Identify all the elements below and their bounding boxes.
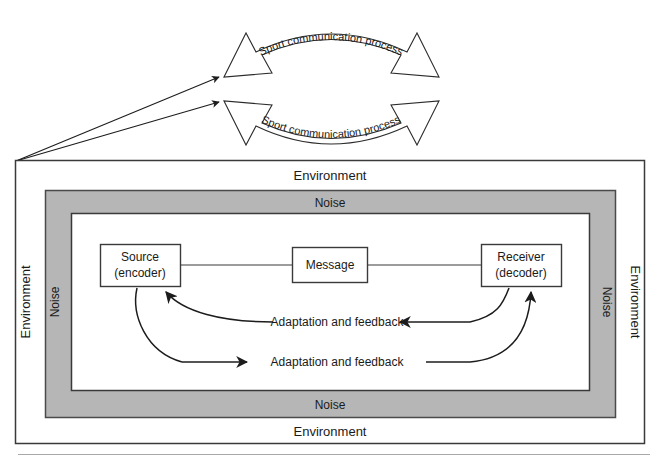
node-message[interactable]: Message	[293, 248, 368, 283]
node-source-line2: (encoder)	[114, 266, 165, 280]
diagram-canvas: Sport communication process Sport commun…	[0, 0, 659, 461]
pointer-line-upper	[16, 77, 219, 161]
environment-label-left: Environment	[18, 265, 33, 338]
node-source-line1: Source	[121, 250, 159, 264]
sport-communication-process-figure: Sport communication process Sport commun…	[0, 0, 659, 461]
noise-label-top: Noise	[315, 196, 346, 210]
node-receiver-line1: Receiver	[497, 250, 544, 264]
node-message-line1: Message	[306, 258, 355, 272]
corner-pointer-lines	[16, 77, 219, 161]
sport-communication-process-arrows: Sport communication process Sport commun…	[224, 30, 439, 145]
feedback-label-lower: Adaptation and feedback	[271, 355, 405, 369]
environment-label-top: Environment	[294, 168, 367, 183]
feedback-label-upper: Adaptation and feedback	[271, 315, 405, 329]
pointer-line-lower	[16, 102, 219, 161]
node-receiver-line2: (decoder)	[495, 266, 546, 280]
environment-label-bottom: Environment	[294, 424, 367, 439]
node-receiver[interactable]: Receiver (decoder)	[482, 245, 562, 287]
noise-label-bottom: Noise	[315, 398, 346, 412]
upper-arc-label: Sport communication process	[257, 30, 406, 58]
noise-label-left: Noise	[48, 286, 62, 317]
environment-label-right: Environment	[628, 266, 643, 339]
noise-label-right: Noise	[600, 287, 614, 318]
node-source[interactable]: Source (encoder)	[101, 245, 181, 287]
